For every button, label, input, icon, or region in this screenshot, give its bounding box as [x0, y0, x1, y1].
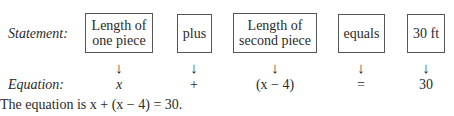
box-text: one piece — [92, 33, 147, 48]
box-text: Length of — [239, 18, 311, 33]
box-30-ft: 30 ft — [407, 14, 445, 53]
box-text: equals — [344, 26, 380, 41]
equation-term: = — [341, 77, 381, 93]
down-arrow-icon: ↓ — [265, 61, 285, 76]
box-plus: plus — [177, 14, 212, 53]
conclusion-equation: x + (x − 4) = 30. — [90, 97, 183, 112]
equation-term: 30 — [406, 77, 446, 93]
box-length-one-piece: Length ofone piece — [85, 13, 153, 53]
equation-term: (x − 4) — [245, 77, 305, 93]
down-arrow-icon: ↓ — [416, 61, 436, 76]
equation-label: Equation: — [8, 77, 64, 93]
box-text: Length of — [92, 18, 147, 33]
down-arrow-icon: ↓ — [184, 61, 204, 76]
box-text: second piece — [239, 33, 311, 48]
conclusion-sentence: The equation is x + (x − 4) = 30. — [0, 97, 182, 113]
box-text: 30 ft — [413, 26, 439, 41]
equation-term: + — [174, 77, 214, 93]
statement-label: Statement: — [8, 26, 68, 42]
box-length-second-piece: Length ofsecond piece — [233, 13, 317, 53]
down-arrow-icon: ↓ — [109, 61, 129, 76]
box-text: plus — [183, 26, 206, 41]
box-equals: equals — [338, 14, 385, 53]
down-arrow-icon: ↓ — [351, 61, 371, 76]
equation-term: x — [99, 77, 139, 93]
conclusion-prefix: The equation is — [0, 97, 90, 112]
